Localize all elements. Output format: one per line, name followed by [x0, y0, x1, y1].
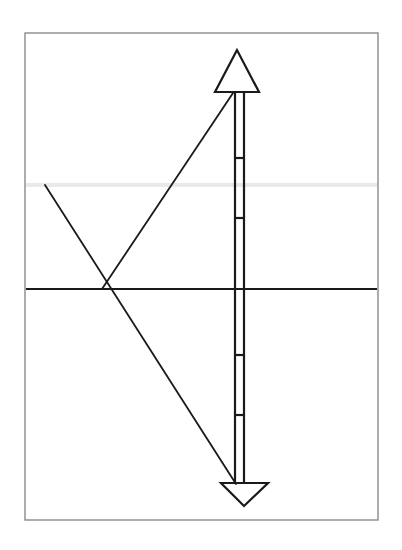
outer-frame	[25, 33, 378, 520]
figure-canvas	[0, 0, 402, 550]
line-diagram	[0, 0, 402, 550]
